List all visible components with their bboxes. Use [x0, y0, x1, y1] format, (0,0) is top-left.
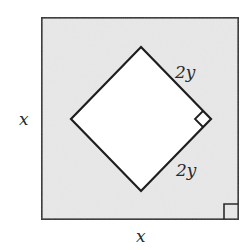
left-side-label: x	[19, 109, 29, 129]
bottom-side-label: x	[136, 226, 146, 246]
upper-side-label: 2y	[174, 62, 196, 82]
lower-side-label: 2y	[175, 160, 197, 180]
geometry-diagram: 2y 2y x x	[0, 0, 244, 250]
